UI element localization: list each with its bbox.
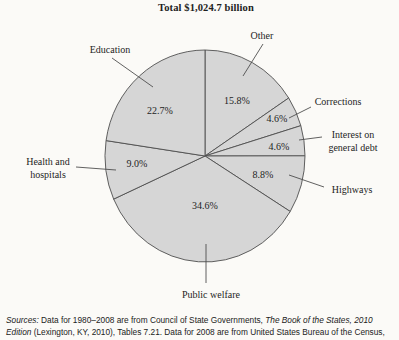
source-line-2: Edition (Lexington, KY, 2010), Tables 7.… (6, 326, 396, 338)
source-text-segment: Sources: (6, 315, 39, 325)
source-text-segment: Data for 1980–2008 are from Council of S… (39, 315, 265, 325)
source-note: Sources: Data for 1980–2008 are from Cou… (6, 314, 396, 338)
source-text-segment: (Lexington, KY, 2010), Tables 7.21. Data… (31, 327, 384, 337)
source-text-segment: The Book of the States, 2010 (265, 315, 372, 325)
pie-chart-figure: Total $1,024.7 billion 15.8%Other4.6%Cor… (0, 0, 399, 340)
pie-slice-education (106, 50, 205, 156)
pie-chart-canvas (0, 0, 399, 340)
source-text-segment: Edition (6, 327, 31, 337)
source-line-1: Sources: Data for 1980–2008 are from Cou… (6, 314, 396, 326)
